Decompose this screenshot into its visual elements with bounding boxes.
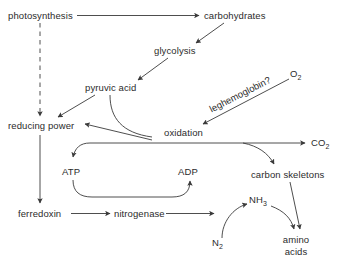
- ammonia-symbol: NH: [249, 194, 263, 205]
- node-ammonia: NH3: [249, 194, 267, 205]
- oxygen-subscript: 2: [298, 74, 302, 81]
- ammonia-subscript: 3: [263, 200, 267, 207]
- edge-nh3-amino-acids: [271, 206, 294, 229]
- edge-pyruvic-acid-oxidation: [110, 95, 152, 137]
- node-carbohydrates: carbohydrates: [204, 10, 266, 21]
- edge-n2-nh3: [222, 204, 247, 238]
- node-atp: ATP: [62, 166, 80, 177]
- edge-oxidation-reducing-power: [85, 124, 152, 140]
- dinitrogen-symbol: N: [212, 237, 219, 248]
- node-dinitrogen: N2: [212, 237, 223, 248]
- edge-glycolysis-pyruvic-acid: [138, 58, 168, 80]
- co2-subscript: 2: [325, 143, 329, 150]
- edge-pyruvic-acid-reducing-power: [58, 95, 95, 117]
- node-carbon-dioxide: CO2: [311, 137, 329, 148]
- node-amino-acids: amino acids: [276, 234, 316, 257]
- co2-symbol: CO: [311, 137, 325, 148]
- node-oxidation: oxidation: [164, 127, 203, 138]
- dinitrogen-subscript: 2: [219, 243, 223, 250]
- edge-atp-adp: [73, 180, 190, 197]
- node-reducing-power: reducing power: [8, 120, 74, 131]
- amino-acids-line-1: amino: [276, 234, 316, 246]
- edge-oxidation-atp: [73, 143, 90, 157]
- amino-acids-line-2: acids: [276, 246, 316, 258]
- node-ferredoxin: ferredoxin: [18, 208, 61, 219]
- oxygen-symbol: O: [290, 68, 298, 79]
- node-glycolysis: glycolysis: [154, 45, 196, 56]
- edge-carbohydrates-glycolysis: [196, 23, 224, 43]
- node-pyruvic-acid: pyruvic acid: [85, 82, 136, 93]
- edge-oxidation-carbon-skeletons: [243, 143, 274, 164]
- node-photosynthesis: photosynthesis: [8, 10, 73, 21]
- node-nitrogenase: nitrogenase: [114, 208, 165, 219]
- node-carbon-skeletons: carbon skeletons: [251, 169, 324, 180]
- node-oxygen: O2: [290, 68, 302, 79]
- node-adp: ADP: [178, 166, 198, 177]
- pathway-diagram: photosynthesis carbohydrates glycolysis …: [0, 0, 337, 265]
